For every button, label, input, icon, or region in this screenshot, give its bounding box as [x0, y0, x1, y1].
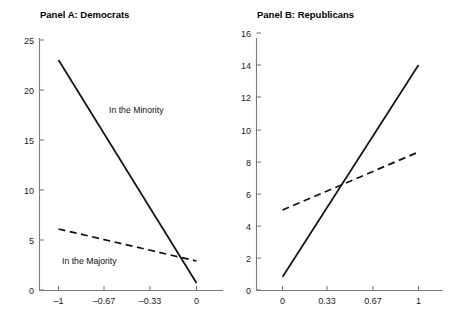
panel-b-series-in-the-minority — [283, 65, 419, 277]
panel-a: Panel A: Democrats 25 20 15 10 5 0 — [24, 9, 223, 306]
panel-b: Panel B: Republicans 16 14 12 10 8 6 4 2… — [241, 9, 443, 306]
panel-b-xtick-label-zero: 0 — [280, 296, 285, 306]
panel-a-xtick-label-zero: 0 — [194, 296, 199, 306]
panel-b-xtick-label-033: 0.33 — [318, 296, 336, 306]
panel-a-y-tick-labels: 25 20 15 10 5 0 — [24, 36, 34, 296]
panel-b-title: Panel B: Republicans — [257, 9, 354, 20]
panel-b-ytick-label-12: 12 — [241, 93, 251, 103]
panel-b-ytick-label-10: 10 — [241, 126, 251, 136]
panel-b-ytick-label-8: 8 — [246, 158, 251, 168]
panel-a-series-in-the-minority — [59, 60, 197, 283]
panel-a-xtick-label-minus067: –0.67 — [93, 296, 116, 306]
two-panel-line-chart-figure: Panel A: Democrats 25 20 15 10 5 0 — [0, 0, 454, 318]
panel-a-ytick-label-20: 20 — [24, 86, 34, 96]
panel-a-y-ticks — [40, 40, 45, 290]
panel-a-x-tick-labels: –1 –0.67 –0.33 0 — [53, 296, 199, 306]
panel-b-x-ticks — [283, 286, 419, 291]
panel-b-ytick-label-6: 6 — [246, 190, 251, 200]
panel-a-ytick-label-15: 15 — [24, 136, 34, 146]
panel-a-ytick-label-0: 0 — [29, 286, 34, 296]
panel-b-ytick-label-16: 16 — [241, 29, 251, 39]
panel-a-xtick-label-minus033: –0.33 — [139, 296, 162, 306]
panel-b-y-ticks — [257, 33, 262, 290]
panel-b-xtick-label-067: 0.67 — [364, 296, 382, 306]
panel-b-ytick-label-0: 0 — [246, 286, 251, 296]
panel-a-title: Panel A: Democrats — [40, 9, 129, 20]
panel-b-ytick-label-2: 2 — [246, 254, 251, 264]
panel-a-xtick-label-minus1: –1 — [53, 296, 63, 306]
panel-a-x-ticks — [59, 286, 197, 291]
panel-b-series-in-the-majority — [283, 152, 419, 210]
panel-a-ytick-label-25: 25 — [24, 36, 34, 46]
panel-a-label-in-the-majority: In the Majority — [62, 256, 117, 266]
panel-b-ytick-label-14: 14 — [241, 61, 251, 71]
panel-b-x-tick-labels: 0 0.33 0.67 1 — [280, 296, 421, 306]
panel-b-axes — [257, 38, 444, 291]
panel-a-ytick-label-10: 10 — [24, 186, 34, 196]
panel-a-ytick-label-5: 5 — [29, 236, 34, 246]
panel-a-axes — [40, 38, 224, 291]
panel-b-y-tick-labels: 16 14 12 10 8 6 4 2 0 — [241, 29, 251, 296]
panel-b-ytick-label-4: 4 — [246, 222, 251, 232]
panel-a-label-in-the-minority: In the Minority — [109, 105, 164, 115]
panel-b-xtick-label-one: 1 — [416, 296, 421, 306]
